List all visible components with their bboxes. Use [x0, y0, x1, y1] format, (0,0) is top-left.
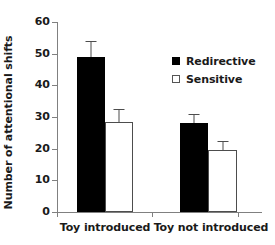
- errorbar-stem: [194, 114, 195, 124]
- x-axis-group-label-toy-not-introduced: Toy not introduced: [150, 221, 272, 234]
- errorbar-sensitive-toy-not-introduced: [208, 141, 237, 151]
- errorbar-sensitive-toy-introduced: [105, 109, 133, 122]
- y-tick-mark: [52, 22, 57, 23]
- errorbar-redirective-toy-introduced: [77, 41, 105, 57]
- bar-sensitive-toy-introduced[interactable]: [105, 122, 133, 212]
- legend-label: Sensitive: [186, 73, 242, 86]
- y-tick-label: 50: [28, 47, 50, 60]
- y-tick-label: 20: [28, 142, 50, 155]
- y-tick-label: 0: [28, 205, 50, 218]
- y-tick-mark: [52, 149, 57, 150]
- x-axis-group-label-toy-introduced: Toy introduced: [55, 221, 155, 234]
- bar-sensitive-toy-not-introduced[interactable]: [208, 150, 237, 212]
- bar-chart-figure: Number of attentional shifts 60 50 40 30…: [0, 0, 275, 245]
- errorbar-stem: [119, 109, 120, 122]
- legend-item-redirective[interactable]: Redirective: [172, 52, 256, 70]
- y-axis-label: Number of attentional shifts: [0, 0, 18, 245]
- y-axis-line: [57, 22, 58, 212]
- errorbar-stem: [222, 141, 223, 151]
- bar-redirective-toy-not-introduced[interactable]: [180, 123, 208, 212]
- y-tick-mark: [52, 54, 57, 55]
- y-tick-mark: [52, 85, 57, 86]
- y-tick-label: 60: [28, 15, 50, 28]
- y-tick-mark: [52, 117, 57, 118]
- bar-redirective-toy-introduced[interactable]: [77, 57, 105, 212]
- errorbar-stem: [91, 41, 92, 57]
- errorbar-redirective-toy-not-introduced: [180, 114, 208, 124]
- y-tick-mark: [52, 180, 57, 181]
- y-tick-label: 30: [28, 110, 50, 123]
- plot-area: 60 50 40 30 20 10 0: [57, 22, 262, 212]
- chart-legend: Redirective Sensitive: [172, 52, 256, 88]
- legend-label: Redirective: [186, 55, 256, 68]
- y-tick-label: 40: [28, 78, 50, 91]
- x-axis-line: [57, 212, 262, 213]
- x-tick-mark: [57, 212, 58, 217]
- filled-square-icon: [172, 57, 180, 65]
- x-tick-mark: [152, 212, 153, 217]
- y-tick-label: 10: [28, 173, 50, 186]
- legend-item-sensitive[interactable]: Sensitive: [172, 70, 256, 88]
- open-square-icon: [172, 75, 180, 83]
- x-tick-mark: [238, 212, 239, 217]
